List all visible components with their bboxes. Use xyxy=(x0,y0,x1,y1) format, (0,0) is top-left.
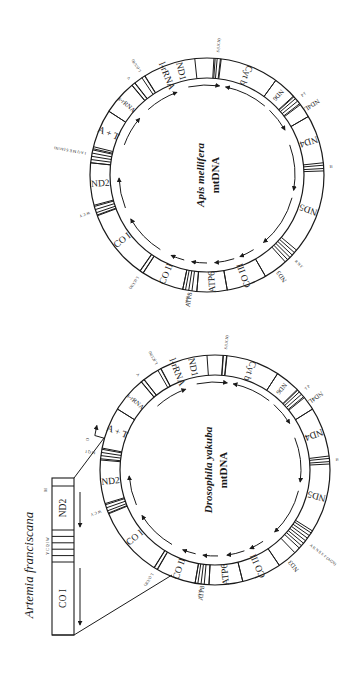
trna-gene-line xyxy=(204,565,206,585)
transcription-arrow xyxy=(131,219,161,250)
transcription-arrow xyxy=(290,145,295,190)
transcription-arrow xyxy=(183,550,196,554)
gene-boundary xyxy=(207,355,208,375)
origin-arrow-icon xyxy=(95,426,97,436)
gene-label-nd3: ND3 xyxy=(275,270,288,284)
gene-boundary xyxy=(304,171,324,172)
gene-label-nd3: ND3 xyxy=(286,559,299,573)
apis-mellifera-mtdna-map: ND1Cyt bND6ND4LND4ND5ND3CO IIIATP6ATP8CO… xyxy=(53,37,333,307)
gene-boundary xyxy=(117,409,134,420)
artemia-title: Artemia franciscana xyxy=(21,511,36,619)
gene-label-co-ii: CO II xyxy=(171,557,188,581)
gene-boundary xyxy=(291,117,308,127)
genome-title: Drosophila yakuba xyxy=(202,426,214,514)
gene-label-nd4: ND4 xyxy=(303,427,324,443)
trna-label: L (UUR) xyxy=(130,58,142,73)
transcription-arrow xyxy=(142,516,172,545)
trna-label: L (CUN) xyxy=(128,276,141,291)
trna-gene-line xyxy=(310,458,330,460)
transcription-arrow xyxy=(250,541,263,548)
trna-gene-line xyxy=(91,163,111,165)
trna-label: S (UCN) xyxy=(215,37,221,52)
trna-label: L (UUR) xyxy=(143,572,155,587)
drosophila-yakuba-mtdna-map: ND1Cyt bND6ND4LND4ND5ND3CO IIIATP6ATP8CO… xyxy=(84,334,338,601)
trna-gene-line xyxy=(97,209,116,216)
gene-label-nd6: ND6 xyxy=(275,382,289,397)
genome-subtitle: mtDNA xyxy=(209,157,221,194)
gene-label-cyt-b: Cyt b xyxy=(242,360,258,383)
gene-label-s-rrna: s-rRNA xyxy=(126,392,146,411)
gene-boundary xyxy=(238,562,243,581)
trna-label: D K xyxy=(184,296,190,304)
gene-label-nd4l: ND4L xyxy=(307,390,325,405)
gene-label-atp6: ATP6 xyxy=(219,563,231,586)
gene-label-l-rrna: l-rRNA xyxy=(157,60,177,91)
transcription-arrow xyxy=(192,262,207,263)
trna-gene-line xyxy=(92,156,112,159)
trna-label: S (UCN) xyxy=(223,334,229,349)
genome-title: Apis mellifera xyxy=(194,143,206,208)
gene-boundary xyxy=(256,259,266,276)
artemia-franciscana-segment: ND2CO IMY C Q I WArtemia franciscana xyxy=(21,438,173,635)
gene-label-co-iii: CO III xyxy=(235,262,253,289)
trna-label: R N F xyxy=(294,259,305,270)
gene-boundary xyxy=(268,549,279,566)
gene-boundary xyxy=(296,409,313,420)
artemia-top-label: M xyxy=(43,488,48,492)
trna-label: V xyxy=(126,76,132,81)
figure-canvas: ND1Cyt bND6ND4LND4ND5ND3CO IIIATP6ATP8CO… xyxy=(0,0,347,676)
trna-label: I A Q M E S (AGN) xyxy=(53,145,86,156)
trna-gene-line xyxy=(101,452,121,455)
gene-label-nd2: ND2 xyxy=(91,178,110,189)
gene-boundary xyxy=(197,272,199,292)
trna-label: H xyxy=(330,164,333,169)
transcription-arrow xyxy=(188,85,219,87)
gene-label-atp6: ATP6 xyxy=(206,271,217,293)
gene-label-co-iii: CO III xyxy=(248,552,267,579)
trna-label: T P xyxy=(303,383,311,391)
transcription-arrow xyxy=(124,118,139,144)
transcription-arrow xyxy=(227,551,244,555)
trna-label: A R N S E F (AGN) xyxy=(309,543,338,567)
trna-gene-line xyxy=(105,499,124,505)
gene-boundary xyxy=(283,390,297,404)
outer-ring xyxy=(100,355,330,585)
inner-ring xyxy=(110,78,304,272)
trna-gene-line xyxy=(94,201,113,206)
artemia-trna-label: Y C Q I W xyxy=(45,537,50,555)
mtdna-gene-map-figure: ND1Cyt bND6ND4LND4ND5ND3CO IIIATP6ATP8CO… xyxy=(0,0,347,676)
trna-label: H xyxy=(335,457,338,462)
gene-label-nd1: ND1 xyxy=(174,61,188,82)
transcription-arrow xyxy=(119,178,125,208)
transcription-arrow xyxy=(171,255,184,260)
trna-gene-line xyxy=(91,160,111,163)
trna-gene-line xyxy=(304,165,324,167)
gene-label-s-rrna: s-rRNA xyxy=(117,95,137,114)
trna-label: W C Y xyxy=(90,509,102,518)
gene-boundary xyxy=(309,456,329,458)
trna-label: M Q I xyxy=(84,449,95,455)
gene-label-nd5: ND5 xyxy=(306,489,327,503)
inner-ring xyxy=(120,375,310,565)
transcription-arrow xyxy=(274,405,290,424)
transcription-arrow xyxy=(215,259,235,263)
gene-label-nd2: ND2 xyxy=(101,475,121,487)
transcription-arrow xyxy=(129,476,136,505)
trna-label: V xyxy=(135,372,141,377)
trna-gene-line xyxy=(304,168,324,169)
gene-label-nd4: ND4 xyxy=(298,134,319,149)
trna-label: W C Y xyxy=(79,211,91,219)
trna-gene-line xyxy=(310,462,330,463)
trna-label: P T xyxy=(300,90,308,98)
trna-gene-line xyxy=(201,564,203,584)
trna-gene-line xyxy=(192,271,195,291)
gene-label-nd6: ND6 xyxy=(271,88,285,103)
transcription-arrow xyxy=(197,382,228,384)
gene-label-nd1: ND1 xyxy=(186,357,200,377)
origin-label: O xyxy=(85,438,90,441)
gene-boundary xyxy=(195,59,197,79)
gene-label-a-t: A + T xyxy=(96,124,120,142)
trna-gene-line xyxy=(189,271,192,291)
gene-boundary xyxy=(209,565,210,585)
gene-boundary xyxy=(267,374,278,391)
